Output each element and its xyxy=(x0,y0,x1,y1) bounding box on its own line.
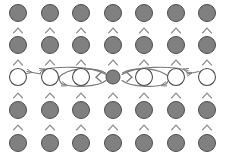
node-visited[interactable] xyxy=(136,37,153,54)
node-visited[interactable] xyxy=(168,5,185,22)
caret-up-icon xyxy=(109,93,118,98)
caret-up-icon xyxy=(46,60,55,65)
node-frontier[interactable] xyxy=(168,69,185,86)
node-visited[interactable] xyxy=(10,102,27,119)
node-visited[interactable] xyxy=(105,37,122,54)
node-frontier[interactable] xyxy=(199,69,216,86)
node-visited[interactable] xyxy=(42,37,59,54)
node-visited[interactable] xyxy=(136,135,153,152)
node-visited[interactable] xyxy=(105,102,122,119)
caret-up-icon xyxy=(172,60,181,65)
caret-up-icon xyxy=(109,28,118,33)
nodes-layer xyxy=(10,5,216,152)
node-visited[interactable] xyxy=(73,135,90,152)
node-visited[interactable] xyxy=(199,5,216,22)
node-visited[interactable] xyxy=(199,102,216,119)
caret-up-icon xyxy=(203,28,212,33)
node-frontier[interactable] xyxy=(73,69,90,86)
caret-up-icon xyxy=(172,93,181,98)
edge-col6-to-col5 xyxy=(187,72,199,75)
node-frontier[interactable] xyxy=(42,69,59,86)
node-visited[interactable] xyxy=(42,102,59,119)
caret-up-icon xyxy=(109,60,118,65)
caret-up-icon xyxy=(172,28,181,33)
caret-up-icon xyxy=(140,125,149,130)
node-visited[interactable] xyxy=(10,135,27,152)
node-visited[interactable] xyxy=(10,37,27,54)
diagram-canvas: grid-graph-shortest-path-tree Rectangula… xyxy=(0,0,228,160)
grid-graph-svg xyxy=(0,0,228,160)
node-visited[interactable] xyxy=(73,37,90,54)
node-visited[interactable] xyxy=(42,135,59,152)
caret-up-icon xyxy=(140,28,149,33)
node-visited[interactable] xyxy=(10,5,27,22)
caret-up-icon xyxy=(14,93,23,98)
node-visited[interactable] xyxy=(73,102,90,119)
caret-up-icon xyxy=(14,125,23,130)
node-visited[interactable] xyxy=(105,5,122,22)
caret-up-icon xyxy=(140,93,149,98)
caret-up-icon xyxy=(203,93,212,98)
edge-lens-left-closure xyxy=(59,74,64,85)
caret-up-icon xyxy=(46,28,55,33)
caret-up-icon xyxy=(77,28,86,33)
node-visited[interactable] xyxy=(168,102,185,119)
node-source[interactable] xyxy=(106,70,120,84)
node-frontier[interactable] xyxy=(10,69,27,86)
caret-up-icon xyxy=(46,93,55,98)
edge-col1-to-col0 xyxy=(27,72,41,75)
node-visited[interactable] xyxy=(168,37,185,54)
node-visited[interactable] xyxy=(199,135,216,152)
caret-up-icon xyxy=(203,60,212,65)
node-visited[interactable] xyxy=(73,5,90,22)
caret-up-icon xyxy=(203,125,212,130)
caret-up-icon xyxy=(14,60,23,65)
caret-up-icon xyxy=(77,125,86,130)
chevron-left-of-center xyxy=(96,73,101,82)
node-visited[interactable] xyxy=(42,5,59,22)
caret-up-icon xyxy=(77,60,86,65)
node-visited[interactable] xyxy=(168,135,185,152)
chevron-right-of-center xyxy=(127,73,132,82)
node-visited[interactable] xyxy=(199,37,216,54)
node-visited[interactable] xyxy=(105,135,122,152)
node-visited[interactable] xyxy=(136,102,153,119)
caret-up-icon xyxy=(140,60,149,65)
caret-up-icon xyxy=(109,125,118,130)
node-visited[interactable] xyxy=(136,5,153,22)
node-frontier[interactable] xyxy=(136,69,153,86)
caret-up-icon xyxy=(46,125,55,130)
caret-up-icon xyxy=(14,28,23,33)
caret-up-icon xyxy=(77,93,86,98)
caret-up-icon xyxy=(172,125,181,130)
